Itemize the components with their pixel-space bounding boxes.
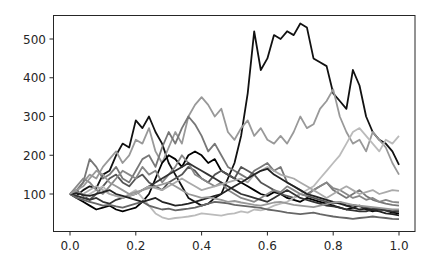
line-chart: 0.00.20.40.60.81.0 100200300400500 bbox=[0, 0, 434, 266]
chart-background bbox=[0, 0, 434, 266]
y-tick-label: 200 bbox=[23, 149, 46, 163]
y-tick-label: 300 bbox=[23, 110, 46, 124]
x-tick-label: 0.4 bbox=[192, 239, 211, 253]
x-tick-label: 1.0 bbox=[389, 239, 408, 253]
x-tick-label: 0.8 bbox=[324, 239, 343, 253]
x-tick-label: 0.2 bbox=[126, 239, 145, 253]
x-tick-label: 0.6 bbox=[258, 239, 277, 253]
y-tick-label: 500 bbox=[23, 33, 46, 47]
y-tick-label: 400 bbox=[23, 71, 46, 85]
x-tick-label: 0.0 bbox=[60, 239, 79, 253]
y-tick-label: 100 bbox=[23, 188, 46, 202]
